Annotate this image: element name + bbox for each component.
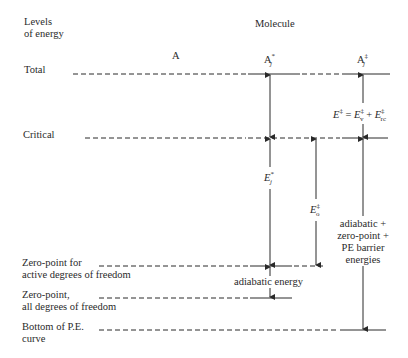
zero-point-all-line1: Zero-point, — [22, 289, 116, 301]
e-ddag-equation: E‡ = E‡v + E‡rc — [333, 105, 386, 125]
e-ddag0-sub: o — [316, 210, 320, 218]
level-label-zero-point-all: Zero-point, all degrees of freedom — [22, 289, 116, 313]
column-a-star-j: A*j — [264, 50, 272, 70]
eq-t2-sub: rc — [381, 115, 386, 123]
zero-point-active-line2: active degrees of freedom — [22, 269, 131, 281]
level-label-total: Total — [24, 64, 45, 76]
e-ddag0-sup: ‡ — [316, 202, 320, 210]
barrier-energies-label: adiabatic + zero-point + PE barrier ener… — [333, 218, 393, 266]
barrier-line1: adiabatic + — [333, 218, 393, 230]
barrier-line2: zero-point + — [333, 230, 393, 242]
level-label-zero-point-active: Zero-point for active degrees of freedom — [22, 257, 131, 281]
a-star-sub: j — [270, 60, 272, 68]
bottom-line1: Bottom of P.E. — [22, 321, 84, 333]
barrier-line3: PE barrier — [333, 242, 393, 254]
eq-equals: = — [343, 109, 354, 120]
e-ddag-0-label: E‡o — [310, 199, 319, 221]
e-star-j-label: E*j — [264, 167, 272, 189]
zero-point-active-line1: Zero-point for — [22, 257, 131, 269]
barrier-line4: energies — [333, 254, 393, 266]
levels-label-line1: Levels — [24, 16, 64, 28]
a-ddag-sub: j — [363, 60, 365, 68]
eq-plus: + — [364, 109, 375, 120]
levels-label-line2: of energy — [24, 28, 64, 40]
column-a: A — [172, 50, 180, 62]
eq-t2-sup: ‡ — [381, 107, 385, 115]
column-a-ddag-j: A‡j — [357, 50, 365, 70]
levels-of-energy-heading: Levels of energy — [24, 16, 64, 40]
bottom-line2: curve — [22, 333, 84, 345]
a-star-sup: * — [272, 52, 276, 60]
e-star-sup: * — [270, 170, 274, 178]
a-ddag-sup: ‡ — [365, 52, 369, 60]
level-label-critical: Critical — [23, 129, 55, 141]
level-label-bottom: Bottom of P.E. curve — [22, 321, 84, 345]
e-star-sub: j — [270, 178, 272, 186]
adiabatic-energy-label: adiabatic energy — [234, 276, 303, 288]
molecule-heading: Molecule — [255, 18, 295, 30]
zero-point-all-line2: all degrees of freedom — [22, 301, 116, 313]
